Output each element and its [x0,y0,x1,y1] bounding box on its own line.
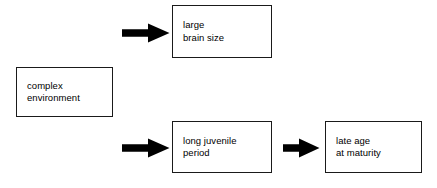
arrow-right-icon-to-long-juvenile-period [122,138,170,158]
arrow-right-icon-to-late-age-at-maturity [283,138,320,158]
node-long-juvenile-period-line-1: long juvenile [183,135,271,148]
node-complex-environment-line-1: complex [27,80,112,93]
node-long-juvenile-period-line-2: period [183,147,271,160]
arrow-right-icon-to-large-brain-size [122,23,170,43]
flow-diagram-canvas: complex environment large brain size lon… [0,0,437,188]
node-late-age-at-maturity-line-2: at maturity [336,147,421,160]
node-complex-environment-line-2: environment [27,92,112,105]
node-large-brain-size-line-2: brain size [183,32,271,45]
node-complex-environment: complex environment [16,67,113,117]
node-long-juvenile-period: long juvenile period [172,121,272,173]
node-large-brain-size-line-1: large [183,19,271,32]
node-large-brain-size: large brain size [172,5,272,58]
node-late-age-at-maturity: late age at maturity [325,121,422,173]
node-late-age-at-maturity-line-1: late age [336,135,421,148]
